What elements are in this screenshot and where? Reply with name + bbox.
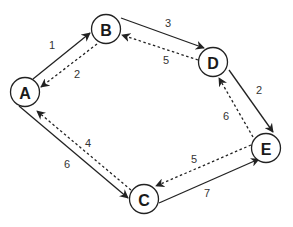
edge-label-d-e: 2 — [256, 84, 262, 96]
edge-d-to-b — [122, 35, 198, 60]
edge-a-to-b — [33, 33, 90, 79]
svg-text:A: A — [19, 85, 31, 102]
edge-e-to-d — [219, 78, 253, 137]
svg-text:E: E — [261, 141, 272, 158]
edge-e-to-c — [156, 145, 251, 186]
edge-label-d-b: 5 — [163, 54, 169, 66]
graph-diagram: 1 2 3 5 2 6 7 5 6 4 A B C D E — [0, 0, 293, 227]
edge-a-to-c — [19, 106, 128, 198]
edge-label-e-c: 5 — [191, 153, 197, 165]
edge-label-b-d: 3 — [165, 17, 171, 29]
edge-label-c-a: 4 — [85, 137, 91, 149]
edge-label-c-e: 7 — [204, 187, 210, 199]
edge-d-to-e — [229, 70, 273, 132]
edge-c-to-a — [37, 111, 131, 190]
node-e: E — [252, 134, 281, 163]
edge-b-to-d — [121, 18, 204, 48]
edge-label-a-c: 6 — [64, 158, 70, 170]
node-b: B — [92, 15, 121, 44]
edge-label-e-d: 6 — [223, 110, 229, 122]
svg-text:D: D — [207, 55, 219, 72]
edge-label-a-b: 1 — [49, 39, 55, 51]
node-d: D — [199, 48, 228, 77]
svg-text:B: B — [100, 22, 112, 39]
edge-label-b-a: 2 — [74, 68, 80, 80]
node-a: A — [11, 78, 40, 107]
node-c: C — [130, 185, 159, 214]
svg-text:C: C — [138, 192, 150, 209]
